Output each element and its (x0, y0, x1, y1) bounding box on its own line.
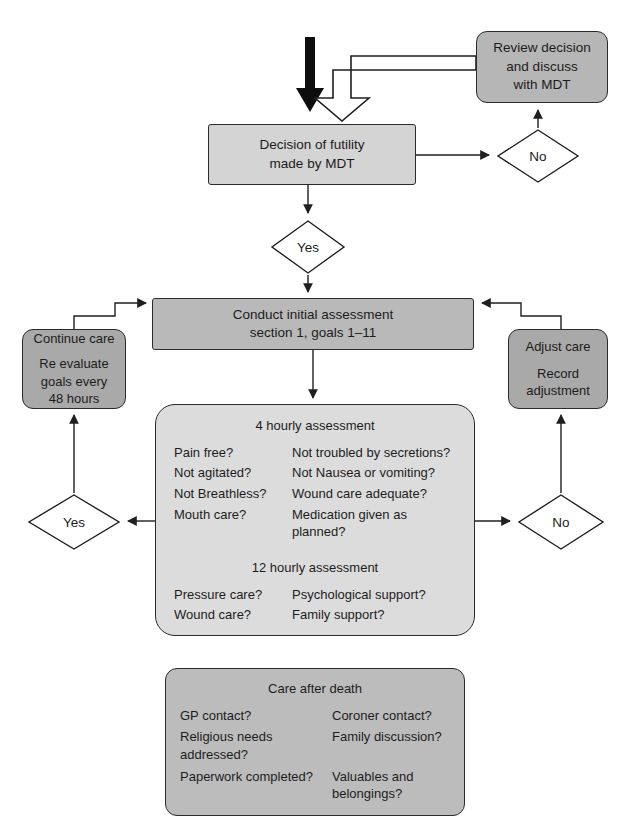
node-conduct-initial-assessment[interactable]: Conduct initial assessment section 1, go… (152, 298, 474, 350)
node-review-line-2: and discuss (506, 58, 577, 76)
node-review-decision[interactable]: Review decision and discuss with MDT (476, 31, 608, 103)
decision-no-assessment[interactable]: No (517, 493, 605, 551)
checklist-item: Not agitated? (174, 464, 292, 482)
checklist-item: Valuables and belongings? (332, 768, 450, 803)
four-hourly-checklist: Pain free? Not troubled by secretions? N… (156, 444, 474, 541)
node-decision-line-2: made by MDT (270, 155, 355, 173)
checklist-item: GP contact? (180, 707, 332, 725)
checklist-item: Pressure care? (174, 586, 292, 604)
decision-yes-assessment[interactable]: Yes (27, 493, 121, 551)
feedback-arrow-hollow (315, 56, 476, 121)
edge-continue-to-initial (74, 303, 146, 329)
decision-label: Yes (63, 515, 85, 530)
checklist-item: Pain free? (174, 444, 292, 462)
four-hourly-assessment-title: 4 hourly assessment (156, 417, 474, 435)
node-continue-heading: Continue care (34, 330, 115, 348)
node-ongoing-assessment[interactable]: 4 hourly assessment Pain free? Not troub… (155, 404, 475, 636)
node-adjust-line-2: adjustment (526, 382, 590, 400)
decision-label: No (529, 149, 546, 164)
node-continue-line-3: 48 hours (49, 390, 100, 408)
node-initial-line-2: section 1, goals 1–11 (250, 324, 377, 342)
decision-label: Yes (297, 240, 319, 255)
twelve-hourly-checklist: Pressure care? Psychological support? Wo… (156, 586, 474, 624)
care-after-death-title: Care after death (166, 680, 464, 698)
flowchart-canvas: Review decision and discuss with MDT Dec… (0, 0, 634, 832)
node-initial-line-1: Conduct initial assessment (233, 306, 394, 324)
checklist-item: Coroner contact? (332, 707, 450, 725)
checklist-item: Religious needs addressed? (180, 728, 332, 763)
checklist-item: Mouth care? (174, 506, 292, 541)
checklist-item: Not Breathless? (174, 485, 292, 503)
checklist-item: Family discussion? (332, 728, 450, 763)
node-continue-line-1: Re evaluate (39, 355, 108, 373)
decision-yes-after-futility[interactable]: Yes (270, 219, 346, 275)
twelve-hourly-assessment-title: 12 hourly assessment (156, 559, 474, 577)
decision-label: No (552, 515, 569, 530)
node-review-line-3: with MDT (514, 76, 571, 94)
node-adjust-line-1: Record (537, 365, 579, 383)
edge-adjust-to-initial (482, 303, 561, 329)
checklist-item: Paperwork completed? (180, 768, 332, 803)
checklist-item: Not troubled by secretions? (292, 444, 456, 462)
node-decision-of-futility[interactable]: Decision of futility made by MDT (208, 124, 416, 185)
checklist-item: Wound care? (174, 606, 292, 624)
decision-no-after-futility[interactable]: No (496, 128, 580, 184)
node-continue-care[interactable]: Continue care Re evaluate goals every 48… (22, 329, 126, 409)
checklist-item: Wound care adequate? (292, 485, 456, 503)
node-continue-line-2: goals every (41, 373, 107, 391)
checklist-item: Medication given as planned? (292, 506, 456, 541)
node-adjust-heading: Adjust care (525, 338, 590, 356)
checklist-item: Family support? (292, 606, 456, 624)
node-care-after-death[interactable]: Care after death GP contact? Coroner con… (165, 668, 465, 816)
node-adjust-care[interactable]: Adjust care Record adjustment (508, 329, 608, 409)
checklist-item: Psychological support? (292, 586, 456, 604)
care-after-death-checklist: GP contact? Coroner contact? Religious n… (166, 707, 464, 803)
checklist-item: Not Nausea or vomiting? (292, 464, 456, 482)
node-decision-line-1: Decision of futility (259, 136, 364, 154)
node-review-line-1: Review decision (493, 39, 591, 57)
